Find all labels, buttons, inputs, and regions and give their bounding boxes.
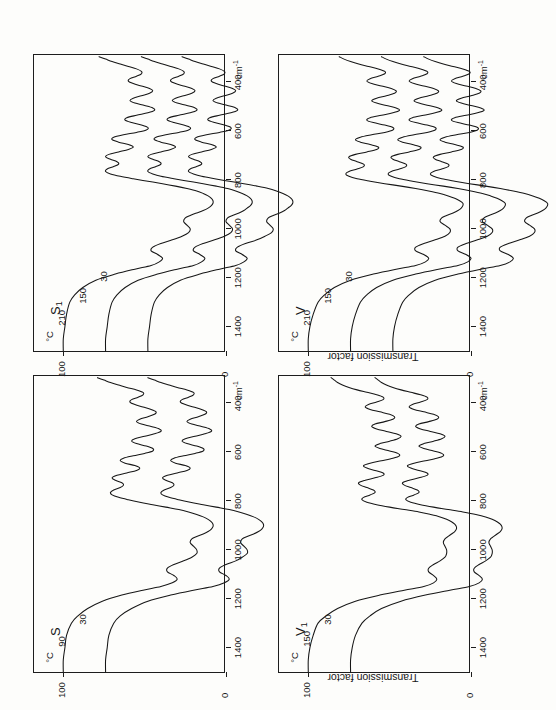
x-tick-label: 1400 xyxy=(232,316,243,337)
x-tick xyxy=(226,451,231,452)
x-tick xyxy=(226,500,231,501)
x-tick-label: 800 xyxy=(232,172,243,188)
panel-s-x-axis: 140012001000800600400cm-1 xyxy=(226,374,252,672)
panel-v-x-axis-title: cm-1 xyxy=(477,60,489,79)
panel-v-curve-label-30: 30 xyxy=(343,271,354,282)
x-tick xyxy=(226,598,231,599)
x-tick-label: 1000 xyxy=(232,539,243,560)
x-tick-label: 600 xyxy=(232,123,243,139)
spectrum-curve xyxy=(308,378,456,672)
y-tick xyxy=(308,672,309,677)
x-tick xyxy=(471,598,476,599)
y-tick-label: 100 xyxy=(56,682,67,698)
x-axis-unit-exponent: -1 xyxy=(232,60,239,66)
x-axis-unit: cm xyxy=(478,66,489,79)
x-tick xyxy=(471,549,476,550)
panel-v1-curve-label-30: 30 xyxy=(322,614,333,625)
x-tick xyxy=(226,647,231,648)
x-tick-label: 1000 xyxy=(477,218,488,239)
figure-page: S1°C21015030140012001000800600400cm-1010… xyxy=(0,0,556,710)
y-tick xyxy=(471,351,472,356)
x-tick-label: 1400 xyxy=(232,637,243,658)
x-tick-label: 1200 xyxy=(232,267,243,288)
x-tick xyxy=(226,228,231,229)
x-tick xyxy=(226,81,231,82)
panel-s: S°C9030140012001000800600400cm-10100 xyxy=(33,375,225,673)
x-axis-unit: cm xyxy=(233,387,244,400)
x-tick-label: 800 xyxy=(477,493,488,509)
x-tick xyxy=(471,500,476,501)
panel-s-curve-label-90: 90 xyxy=(56,636,67,647)
panel-s-y-axis: 0100 xyxy=(34,652,226,678)
spectrum-curve xyxy=(63,378,213,672)
panel-v1-plot-area: V1°C15030140012001000800600400cm-10100Tr… xyxy=(278,375,470,673)
x-tick-label: 1200 xyxy=(477,588,488,609)
y-tick xyxy=(226,351,227,356)
x-tick xyxy=(471,130,476,131)
x-axis-unit-exponent: -1 xyxy=(477,381,484,387)
x-tick-label: 600 xyxy=(477,123,488,139)
x-tick-label: 600 xyxy=(232,444,243,460)
x-tick xyxy=(226,326,231,327)
panel-v1: V1°C15030140012001000800600400cm-10100Tr… xyxy=(278,375,470,673)
panel-s-curve-label-30: 30 xyxy=(77,614,88,625)
panel-v-y-axis-title: Transmission factor xyxy=(327,351,418,363)
panel-grid: S1°C21015030140012001000800600400cm-1010… xyxy=(0,0,556,710)
y-tick xyxy=(471,672,472,677)
panel-v-rotated-space: V°C21015030140012001000800600400cm-10100… xyxy=(278,54,470,352)
x-axis-unit: cm xyxy=(233,66,244,79)
x-axis-unit-exponent: -1 xyxy=(232,381,239,387)
panel-v1-y-axis-title: Transmission factor xyxy=(327,672,418,684)
x-tick xyxy=(226,402,231,403)
panel-v-curve-label-150: 150 xyxy=(322,288,333,304)
x-tick-label: 1400 xyxy=(477,637,488,658)
x-tick-label: 1400 xyxy=(477,316,488,337)
x-tick xyxy=(471,228,476,229)
panel-v-curve-label-210: 210 xyxy=(301,310,312,326)
y-tick-label: 0 xyxy=(219,693,230,698)
panel-s1-curve-label-210: 210 xyxy=(56,310,67,326)
x-tick-label: 1200 xyxy=(477,267,488,288)
panel-label-subscript: 1 xyxy=(54,301,64,306)
x-tick xyxy=(226,549,231,550)
panel-v: V°C21015030140012001000800600400cm-10100… xyxy=(278,54,470,352)
x-tick-label: 1000 xyxy=(232,218,243,239)
panel-v1-x-axis: 140012001000800600400cm-1 xyxy=(471,374,497,672)
panel-s1-rotated-space: S1°C21015030140012001000800600400cm-1010… xyxy=(33,54,225,352)
panel-s1-plot-area: S1°C21015030140012001000800600400cm-1010… xyxy=(33,54,225,352)
x-tick-label: 1200 xyxy=(232,588,243,609)
x-tick xyxy=(471,326,476,327)
x-tick xyxy=(471,179,476,180)
x-tick-label: 800 xyxy=(232,493,243,509)
y-tick xyxy=(63,351,64,356)
y-tick-label: 100 xyxy=(301,682,312,698)
panel-s1-curve-label-30: 30 xyxy=(98,271,109,282)
spectrum-curve xyxy=(63,57,213,351)
x-tick xyxy=(471,402,476,403)
y-tick xyxy=(226,672,227,677)
x-axis-unit: cm xyxy=(478,387,489,400)
panel-s-x-axis-title: cm-1 xyxy=(232,381,244,400)
y-tick-label: 0 xyxy=(464,693,475,698)
y-tick xyxy=(308,351,309,356)
x-tick xyxy=(471,81,476,82)
panel-s1-x-axis: 140012001000800600400cm-1 xyxy=(226,53,252,351)
x-tick-label: 800 xyxy=(477,172,488,188)
spectrum-curve xyxy=(148,57,293,351)
x-tick xyxy=(226,130,231,131)
x-tick xyxy=(471,647,476,648)
panel-s1-y-axis: 0100 xyxy=(34,331,226,357)
panel-v1-curve-label-150: 150 xyxy=(301,631,312,647)
panel-v1-rotated-space: V1°C15030140012001000800600400cm-10100Tr… xyxy=(278,375,470,673)
panel-s-rotated-space: S°C9030140012001000800600400cm-10100 xyxy=(33,375,225,673)
x-tick-label: 1000 xyxy=(477,539,488,560)
panel-s-plot-area: S°C9030140012001000800600400cm-10100 xyxy=(33,375,225,673)
panel-s1: S1°C21015030140012001000800600400cm-1010… xyxy=(33,54,225,352)
panel-label-subscript: 1 xyxy=(299,622,309,627)
panel-s1-x-axis-title: cm-1 xyxy=(232,60,244,79)
x-tick xyxy=(471,277,476,278)
panel-v1-x-axis-title: cm-1 xyxy=(477,381,489,400)
x-tick xyxy=(471,451,476,452)
panel-s1-curve-label-150: 150 xyxy=(77,288,88,304)
spectrum-curve xyxy=(308,57,463,351)
